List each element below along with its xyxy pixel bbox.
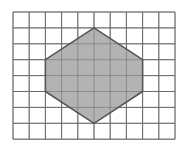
grid-diagram [0,0,184,148]
grid-lines-overlay [13,12,175,139]
